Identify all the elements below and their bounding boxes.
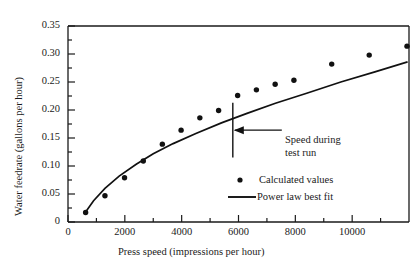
legend-label-calculated-values: Calculated values <box>259 174 333 185</box>
x-tick-label: 0 <box>43 226 93 237</box>
y-tick-label: 0.25 <box>20 75 60 86</box>
data-point <box>291 78 296 83</box>
annotation-arrow-head <box>234 126 244 134</box>
data-point <box>404 43 409 48</box>
data-point <box>122 175 127 180</box>
y-axis-title: Water feedrate (gallons per hour) <box>13 77 24 216</box>
x-tick-label: 10000 <box>327 226 377 237</box>
data-point <box>102 193 107 198</box>
x-tick-label: 2000 <box>100 226 150 237</box>
data-point <box>141 158 146 163</box>
y-tick-label: 0.20 <box>20 103 60 114</box>
data-point <box>254 87 259 92</box>
y-tick-label: 0.35 <box>20 19 60 30</box>
x-tick-label: 8000 <box>270 226 320 237</box>
y-tick-marks <box>68 26 75 222</box>
data-point <box>197 115 202 120</box>
legend-label-power-law-best-fit: Power law best fit <box>257 191 333 202</box>
y-tick-label: 0.30 <box>20 47 60 58</box>
x-tick-marks <box>68 215 381 222</box>
x-tick-label: 4000 <box>157 226 207 237</box>
data-point <box>329 61 334 66</box>
x-axis-title: Press speed (impressions per hour) <box>118 246 264 257</box>
y-tick-label: 0.10 <box>20 159 60 170</box>
y-tick-label: 0.05 <box>20 187 60 198</box>
power-law-best-fit-line <box>86 62 408 212</box>
data-point <box>272 82 277 87</box>
plot-frame <box>68 26 409 222</box>
y-tick-label: 0 <box>20 215 60 226</box>
data-point <box>235 93 240 98</box>
x-tick-label: 6000 <box>214 226 264 237</box>
annotation-line-1: Speed during <box>285 134 341 147</box>
data-point <box>178 127 183 132</box>
legend-dot-icon <box>237 177 242 182</box>
y-tick-label: 0.15 <box>20 131 60 142</box>
data-point <box>216 108 221 113</box>
data-point <box>367 52 372 57</box>
data-point <box>83 210 88 215</box>
calculated-values-points <box>83 43 410 215</box>
annotation-line-2: test run <box>285 147 316 160</box>
data-point <box>160 141 165 146</box>
